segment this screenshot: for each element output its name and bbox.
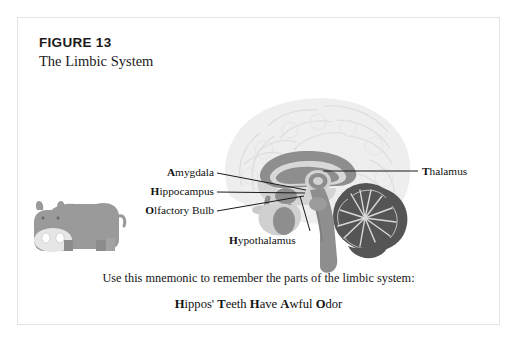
mnemonic-word-rest: eeth — [226, 297, 247, 311]
mnemonic-word-initial: T — [217, 297, 225, 311]
figure-card: FIGURE 13 The Limbic System — [17, 17, 500, 325]
hippo-illustration — [34, 201, 125, 252]
mnemonic-word-initial: H — [175, 297, 185, 311]
mnemonic-word-rest: ippos' — [185, 297, 215, 311]
mnemonic-word: Odor — [316, 297, 343, 311]
label-olfactory-bulb-initial: O — [145, 204, 154, 216]
label-olfactory-bulb: Olfactory Bulb — [145, 204, 214, 217]
mnemonic-word-rest: ave — [260, 297, 277, 311]
mnemonic-phrase: Hippos' Teeth Have Awful Odor — [18, 297, 499, 312]
mnemonic-word-initial: H — [250, 297, 260, 311]
label-hippocampus-rest: ippocampus — [159, 185, 214, 197]
label-olfactory-bulb-rest: lfactory Bulb — [154, 204, 214, 216]
label-hippocampus: Hippocampus — [151, 185, 214, 198]
mnemonic-word: Teeth — [217, 297, 246, 311]
label-amygdala-rest: mygdala — [175, 166, 214, 178]
label-thalamus: Thalamus — [422, 165, 467, 178]
mnemonic-word-rest: dor — [325, 297, 342, 311]
label-hypothalamus-rest: ypothalamus — [238, 234, 296, 246]
mnemonic-word-initial: O — [316, 297, 326, 311]
mnemonic-sentence: Use this mnemonic to remember the parts … — [18, 271, 499, 286]
label-thalamus-initial: T — [422, 165, 430, 177]
label-hypothalamus-initial: H — [229, 234, 238, 246]
mnemonic-word-rest: wful — [289, 297, 312, 311]
mnemonic-word-initial: A — [280, 297, 289, 311]
label-hypothalamus: Hypothalamus — [229, 234, 296, 247]
mnemonic-word: Hippos' — [175, 297, 214, 311]
label-amygdala-initial: A — [167, 166, 175, 178]
label-amygdala: Amygdala — [167, 166, 214, 179]
mnemonic-word: Have — [250, 297, 277, 311]
label-thalamus-rest: halamus — [430, 165, 468, 177]
mnemonic-word: Awful — [280, 297, 312, 311]
